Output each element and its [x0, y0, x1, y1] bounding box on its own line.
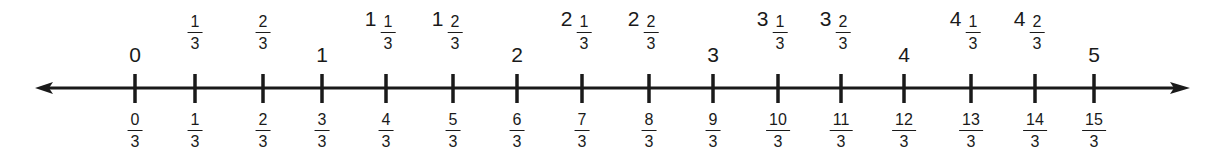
- denominator: 3: [968, 33, 977, 52]
- numerator: 1: [188, 14, 203, 33]
- improper-fraction-label: 153: [1082, 112, 1106, 150]
- fraction-part: 13: [576, 14, 591, 52]
- improper-fraction-label: 63: [510, 112, 525, 150]
- fraction-part: 23: [1029, 14, 1044, 52]
- denominator: 3: [838, 33, 847, 52]
- whole-part: 4: [950, 8, 962, 29]
- denominator: 3: [775, 33, 784, 52]
- fraction: 23: [256, 112, 271, 150]
- fraction: 123: [892, 112, 916, 150]
- improper-fraction-label: 103: [766, 112, 790, 150]
- denominator: 3: [191, 33, 200, 52]
- numerator: 2: [256, 14, 271, 33]
- numerator: 8: [642, 112, 657, 131]
- denominator: 3: [578, 131, 587, 150]
- improper-fraction-label: 53: [446, 112, 461, 150]
- fraction-part: 23: [447, 14, 462, 52]
- numerator: 10: [766, 112, 790, 131]
- fraction: 13: [188, 112, 203, 150]
- whole-part: 3: [757, 8, 769, 29]
- numerator: 7: [575, 112, 590, 131]
- denominator: 3: [450, 33, 459, 52]
- denominator: 3: [449, 131, 458, 150]
- denominator: 3: [837, 131, 846, 150]
- denominator: 3: [131, 131, 140, 150]
- numerator: 6: [510, 112, 525, 131]
- whole-part: 2: [628, 8, 640, 29]
- fraction-part: 13: [772, 14, 787, 52]
- whole-part: 2: [561, 8, 573, 29]
- improper-fraction-label: 143: [1023, 112, 1047, 150]
- improper-fraction-label: 83: [642, 112, 657, 150]
- numerator: 3: [315, 112, 330, 131]
- fraction-label: 23: [256, 14, 271, 52]
- whole-number-label: 4: [898, 44, 910, 65]
- fraction: 23: [256, 14, 271, 52]
- fraction: 93: [706, 112, 721, 150]
- numerator: 14: [1023, 112, 1047, 131]
- denominator: 3: [259, 131, 268, 150]
- numerator: 1: [188, 112, 203, 131]
- numerator: 1: [965, 14, 980, 33]
- improper-fraction-label: 73: [575, 112, 590, 150]
- denominator: 3: [646, 33, 655, 52]
- numerator: 2: [256, 112, 271, 131]
- fraction-part: 13: [380, 14, 395, 52]
- denominator: 3: [191, 131, 200, 150]
- numerator: 11: [830, 112, 853, 131]
- fraction-label: 13: [188, 14, 203, 52]
- improper-fraction-label: 03: [128, 112, 143, 150]
- improper-fraction-label: 133: [959, 112, 983, 150]
- whole-number-label: 0: [129, 44, 141, 65]
- fraction: 113: [830, 112, 853, 150]
- fraction: 43: [379, 112, 394, 150]
- number-line-diagram: 0031313232313311343123532632137322383393…: [0, 0, 1220, 167]
- mixed-number-label: 323: [820, 14, 851, 52]
- fraction: 33: [315, 112, 330, 150]
- whole-part: 1: [365, 8, 377, 29]
- numerator: 0: [128, 112, 143, 131]
- denominator: 3: [1090, 131, 1099, 150]
- numerator: 9: [706, 112, 721, 131]
- mixed-number-label: 213: [561, 14, 592, 52]
- numerator: 2: [643, 14, 658, 33]
- numerator: 5: [446, 112, 461, 131]
- improper-fraction-label: 23: [256, 112, 271, 150]
- denominator: 3: [709, 131, 718, 150]
- improper-fraction-label: 13: [188, 112, 203, 150]
- mixed-number-label: 313: [757, 14, 788, 52]
- numerator: 15: [1082, 112, 1106, 131]
- fraction: 83: [642, 112, 657, 150]
- denominator: 3: [1031, 131, 1040, 150]
- mixed-number-label: 123: [432, 14, 463, 52]
- denominator: 3: [967, 131, 976, 150]
- fraction: 03: [128, 112, 143, 150]
- fraction: 13: [188, 14, 203, 52]
- denominator: 3: [259, 33, 268, 52]
- numerator: 12: [892, 112, 916, 131]
- denominator: 3: [774, 131, 783, 150]
- denominator: 3: [579, 33, 588, 52]
- numerator: 1: [772, 14, 787, 33]
- denominator: 3: [1032, 33, 1041, 52]
- numerator: 2: [1029, 14, 1044, 33]
- mixed-number-label: 423: [1014, 14, 1045, 52]
- improper-fraction-label: 43: [379, 112, 394, 150]
- fraction: 63: [510, 112, 525, 150]
- whole-number-label: 1: [316, 44, 328, 65]
- denominator: 3: [513, 131, 522, 150]
- whole-number-label: 2: [511, 44, 523, 65]
- fraction: 143: [1023, 112, 1047, 150]
- whole-number-label: 3: [707, 44, 719, 65]
- improper-fraction-label: 113: [830, 112, 853, 150]
- numerator: 4: [379, 112, 394, 131]
- numerator: 1: [380, 14, 395, 33]
- numerator: 1: [576, 14, 591, 33]
- denominator: 3: [382, 131, 391, 150]
- whole-part: 3: [820, 8, 832, 29]
- improper-fraction-label: 93: [706, 112, 721, 150]
- fraction: 103: [766, 112, 790, 150]
- whole-part: 4: [1014, 8, 1026, 29]
- denominator: 3: [383, 33, 392, 52]
- numerator: 2: [447, 14, 462, 33]
